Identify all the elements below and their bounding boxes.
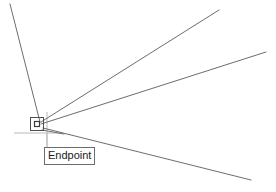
ray-upper-right-line[interactable] <box>41 10 219 122</box>
ray-upper-left-line[interactable] <box>10 4 40 122</box>
ray-middle-right-line[interactable] <box>41 52 266 124</box>
endpoint-snap-tooltip-label: Endpoint <box>48 149 91 161</box>
endpoint-snap-marker-square <box>35 122 40 127</box>
endpoint-snap-marker <box>35 122 40 127</box>
endpoint-snap-tooltip: Endpoint <box>44 147 95 165</box>
cad-drawing-viewport[interactable]: Endpoint <box>0 0 276 192</box>
drawing-canvas[interactable] <box>0 0 276 192</box>
